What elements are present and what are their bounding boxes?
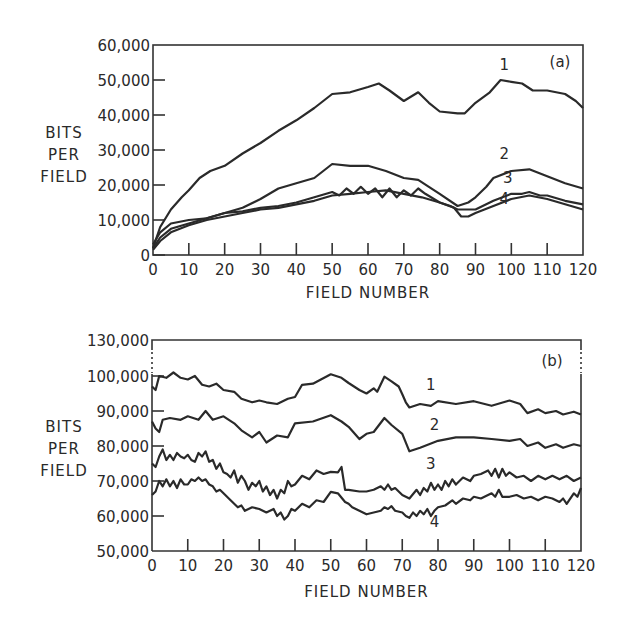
y-tick-label: 100,000	[87, 368, 149, 386]
x-tick-label: 60	[358, 261, 377, 279]
x-tick-label: 20	[214, 557, 233, 575]
series-line-2	[152, 411, 581, 451]
y-tick-label: 40,000	[98, 107, 151, 125]
x-tick-label: 90	[466, 261, 485, 279]
series-label: 4	[499, 190, 509, 208]
y-tick-label: 130,000	[87, 332, 149, 350]
series-line-2	[153, 164, 583, 245]
y-tick-label: 80,000	[97, 438, 150, 456]
panel-b-chart: 010203040506070809010011012050,00060,000…	[40, 332, 595, 601]
x-tick-label: 30	[250, 557, 269, 575]
x-axis-title: FIELD NUMBER	[306, 284, 431, 302]
x-tick-label: 110	[533, 261, 562, 279]
x-tick-label: 40	[287, 261, 306, 279]
x-tick-label: 110	[531, 557, 560, 575]
x-tick-label: 40	[285, 557, 304, 575]
x-tick-label: 100	[495, 557, 524, 575]
series-label: 1	[499, 56, 509, 74]
x-tick-label: 90	[464, 557, 483, 575]
y-tick-label: 30,000	[98, 142, 151, 160]
series-label: 2	[430, 416, 440, 434]
y-tick-label: 0	[140, 247, 150, 265]
x-tick-label: 120	[569, 261, 598, 279]
x-tick-label: 30	[251, 261, 270, 279]
plot-frame	[153, 45, 583, 255]
x-tick-label: 60	[357, 557, 376, 575]
x-tick-label: 70	[394, 261, 413, 279]
series-label: 4	[430, 513, 440, 531]
x-tick-label: 20	[215, 261, 234, 279]
series-line-1	[152, 373, 581, 415]
x-tick-label: 50	[323, 261, 342, 279]
x-tick-label: 50	[321, 557, 340, 575]
panel-label: (b)	[541, 352, 562, 370]
panel-label: (a)	[550, 53, 571, 71]
x-tick-label: 120	[567, 557, 596, 575]
series-line-4	[152, 478, 581, 520]
y-tick-label: 50,000	[98, 72, 151, 90]
y-axis-title-line: PER	[48, 440, 80, 458]
y-tick-label: 50,000	[97, 543, 150, 561]
chart-canvas: 0102030405060708090100110120010,00020,00…	[0, 0, 625, 621]
x-tick-label: 10	[179, 261, 198, 279]
y-tick-label: 70,000	[97, 473, 150, 491]
series-label: 2	[499, 145, 509, 163]
y-tick-label: 60,000	[98, 37, 151, 55]
y-tick-label: 60,000	[97, 508, 150, 526]
y-axis-title-line: BITS	[45, 418, 82, 436]
x-tick-label: 100	[497, 261, 526, 279]
series-line-4	[153, 190, 583, 250]
x-tick-label: 10	[178, 557, 197, 575]
y-axis-title-line: FIELD	[40, 462, 87, 480]
y-axis-title-line: BITS	[45, 124, 82, 142]
y-axis-title-line: FIELD	[40, 168, 87, 186]
plot-frame	[152, 340, 581, 551]
y-tick-label: 90,000	[97, 403, 150, 421]
y-tick-label: 10,000	[98, 212, 151, 230]
y-axis-title-line: PER	[48, 146, 80, 164]
x-axis-title: FIELD NUMBER	[304, 583, 429, 601]
series-label: 1	[426, 376, 436, 394]
series-label: 3	[503, 169, 513, 187]
x-tick-label: 70	[393, 557, 412, 575]
series-label: 3	[426, 455, 436, 473]
series-line-1	[153, 80, 583, 248]
x-tick-label: 80	[428, 557, 447, 575]
figure: 0102030405060708090100110120010,00020,00…	[0, 0, 625, 621]
x-tick-label: 80	[430, 261, 449, 279]
y-tick-label: 20,000	[98, 177, 151, 195]
panel-a-chart: 0102030405060708090100110120010,00020,00…	[40, 37, 597, 302]
